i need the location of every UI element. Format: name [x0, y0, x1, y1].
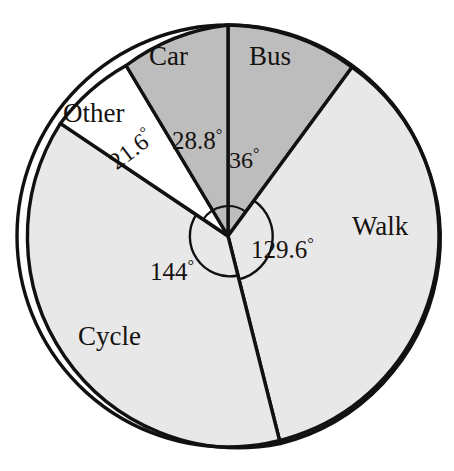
angle-value-car: 28.8	[172, 127, 216, 154]
pie-chart: Car Bus Other Walk Cycle 28.8° 36° 21.6°…	[0, 0, 454, 471]
angle-label-bus: 36°	[229, 148, 259, 172]
angle-label-cycle: 144°	[150, 259, 194, 284]
degree-symbol-bus: °	[253, 145, 259, 162]
slice-label-bus: Bus	[249, 43, 291, 70]
slice-label-walk: Walk	[352, 213, 408, 240]
angle-value-bus: 36	[229, 147, 253, 173]
slice-label-car: Car	[149, 43, 188, 70]
degree-symbol-walk: °	[307, 234, 314, 253]
degree-symbol-car: °	[216, 125, 223, 144]
slice-label-cycle: Cycle	[78, 323, 141, 350]
angle-label-car: 28.8°	[172, 128, 222, 153]
slice-label-other: Other	[63, 100, 124, 127]
angle-value-cycle: 144	[150, 258, 188, 285]
degree-symbol-cycle: °	[188, 256, 195, 275]
angle-label-walk: 129.6°	[251, 237, 314, 262]
angle-value-walk: 129.6	[251, 236, 307, 263]
